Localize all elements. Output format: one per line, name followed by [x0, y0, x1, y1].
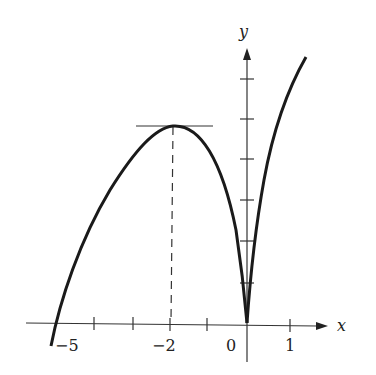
x-axis-arrow-icon — [316, 322, 328, 330]
curve-left-branch — [51, 126, 247, 346]
tick-label-m5: −5 — [55, 336, 79, 355]
chart: x y −5 −2 0 1 — [0, 0, 376, 375]
y-axis-label: y — [238, 22, 249, 41]
tick-label-m2: −2 — [152, 336, 176, 355]
tick-label-1: 1 — [285, 336, 295, 355]
curve-right-branch — [247, 57, 306, 323]
x-axis — [26, 323, 318, 326]
tick-label-0: 0 — [226, 336, 236, 355]
plot-area: x y −5 −2 0 1 — [0, 0, 376, 375]
dashed-guide — [171, 127, 173, 322]
x-axis-label: x — [337, 316, 346, 335]
y-axis-arrow-icon — [243, 48, 251, 60]
